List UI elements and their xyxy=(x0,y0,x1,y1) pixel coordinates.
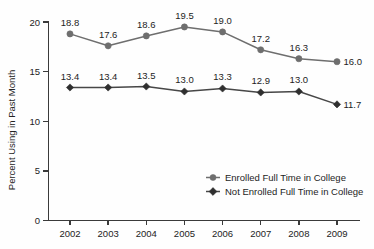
data-point-marker[interactable] xyxy=(258,47,264,53)
data-label: 13.0 xyxy=(175,74,194,85)
data-label: 16.3 xyxy=(290,42,309,53)
legend-item-not-enrolled[interactable]: Not Enrolled Full Time in College xyxy=(206,186,363,197)
x-tick-label: 2004 xyxy=(136,228,157,239)
data-label: 17.2 xyxy=(251,33,270,44)
x-tick-label: 2005 xyxy=(174,228,195,239)
data-point-marker[interactable] xyxy=(295,88,302,95)
data-label: 11.7 xyxy=(344,99,362,110)
data-label: 16.0 xyxy=(344,56,363,67)
chart-canvas: Percent Using in Past Month 05101520 200… xyxy=(0,0,374,249)
legend-circle-icon xyxy=(210,175,216,181)
data-label: 12.9 xyxy=(251,75,270,86)
legend-diamond-icon xyxy=(209,188,217,196)
x-tick-label: 2002 xyxy=(59,228,80,239)
data-point-marker[interactable] xyxy=(105,84,112,91)
data-label: 18.8 xyxy=(61,17,80,28)
data-label: 19.0 xyxy=(213,15,232,26)
data-point-marker[interactable] xyxy=(257,89,264,96)
data-label: 13.4 xyxy=(61,71,80,82)
y-axis-ticks: 05101520 xyxy=(29,17,48,227)
data-label: 19.5 xyxy=(175,10,194,21)
x-tick-label: 2008 xyxy=(288,228,309,239)
data-point-marker[interactable] xyxy=(181,24,187,30)
x-tick-label: 2003 xyxy=(98,228,119,239)
chart-legend: Enrolled Full Time in College Not Enroll… xyxy=(206,172,363,197)
data-point-marker[interactable] xyxy=(219,85,226,92)
y-tick-label: 10 xyxy=(29,116,40,127)
line-chart: Percent Using in Past Month 05101520 200… xyxy=(0,0,374,249)
data-point-marker[interactable] xyxy=(67,31,73,37)
data-point-marker[interactable] xyxy=(105,43,111,49)
legend-item-enrolled[interactable]: Enrolled Full Time in College xyxy=(206,172,346,183)
y-tick-label: 0 xyxy=(35,215,40,226)
data-label: 13.5 xyxy=(137,70,156,81)
x-tick-label: 2009 xyxy=(326,228,347,239)
x-tick-label: 2007 xyxy=(250,228,271,239)
data-label: 13.0 xyxy=(290,74,309,85)
data-point-marker[interactable] xyxy=(334,59,340,65)
data-point-marker[interactable] xyxy=(181,88,188,95)
data-label: 13.3 xyxy=(213,71,232,82)
x-axis-ticks: 20022003200420052006200720082009 xyxy=(59,221,347,240)
y-tick-label: 20 xyxy=(29,17,40,28)
y-tick-label: 15 xyxy=(29,66,40,77)
data-label: 18.6 xyxy=(137,19,156,30)
data-point-marker[interactable] xyxy=(333,101,340,108)
data-point-marker[interactable] xyxy=(219,29,225,35)
legend-label-enrolled: Enrolled Full Time in College xyxy=(225,172,346,183)
legend-label-not-enrolled: Not Enrolled Full Time in College xyxy=(225,186,363,197)
y-tick-label: 5 xyxy=(35,165,40,176)
data-label: 13.4 xyxy=(99,71,118,82)
data-point-marker[interactable] xyxy=(143,33,149,39)
data-point-marker[interactable] xyxy=(143,83,150,90)
data-point-marker[interactable] xyxy=(296,56,302,62)
x-tick-label: 2006 xyxy=(212,228,233,239)
data-label: 17.6 xyxy=(99,29,118,40)
y-axis-title: Percent Using in Past Month xyxy=(6,70,17,190)
data-point-marker[interactable] xyxy=(66,84,73,91)
